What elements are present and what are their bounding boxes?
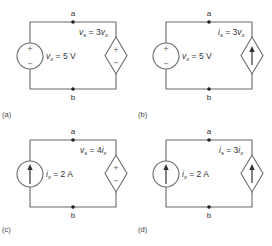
node-a-label: a [71, 9, 76, 18]
circuit-wire [30, 187, 116, 207]
node-b-label: b [207, 211, 212, 220]
node-a-dot [207, 138, 211, 142]
plus-sign: + [163, 45, 169, 53]
panel-caption: (d) [138, 225, 148, 234]
panel-caption: (a) [2, 110, 12, 119]
node-a-label: a [207, 9, 212, 18]
circuit-panel-a: + − vx = 5 V + − vs = 3vx a b (a) [2, 9, 127, 119]
circuit-panel-c: ix = 2 A + − vs = 4ix a b (c) [2, 127, 127, 234]
independent-source-label: vx = 5 V [46, 51, 76, 62]
dependent-source-label: vs = 3vx [79, 27, 109, 38]
node-b-label: b [207, 93, 212, 102]
dependent-source-label: is = 3ix [219, 145, 244, 156]
dependent-source-label: is = 3vx [218, 27, 246, 38]
minus-sign: − [113, 177, 119, 185]
independent-source-label: ix = 2 A [46, 169, 73, 180]
circuit-figure: + − vx = 5 V + − vs = 3vx a b (a) + − vx… [0, 0, 272, 246]
dependent-source-label: vs = 4ix [80, 145, 108, 156]
minus-sign: − [163, 60, 169, 68]
node-a-dot [71, 20, 75, 24]
circuit-panel-d: ix = 2 A is = 3ix a b (d) [138, 127, 263, 234]
dependent-voltage-source-icon [105, 155, 127, 192]
minus-sign: − [113, 59, 119, 67]
node-a-dot [71, 138, 75, 142]
independent-source-label: vx = 5 V [182, 51, 212, 62]
plus-sign: + [27, 45, 33, 53]
node-a-label: a [71, 127, 76, 136]
node-b-dot [71, 87, 75, 91]
node-b-dot [207, 205, 211, 209]
node-a-label: a [207, 127, 212, 136]
node-b-label: b [71, 93, 76, 102]
dependent-voltage-source-icon [105, 37, 127, 74]
independent-source-label: ix = 2 A [182, 169, 209, 180]
node-a-dot [207, 20, 211, 24]
plus-sign: + [113, 46, 119, 54]
node-b-label: b [71, 211, 76, 220]
circuit-wire [166, 187, 252, 207]
panel-caption: (c) [2, 225, 11, 234]
minus-sign: − [27, 60, 33, 68]
panel-caption: (b) [138, 110, 148, 119]
circuit-panel-b: + − vx = 5 V is = 3vx a b (b) [138, 9, 263, 119]
plus-sign: + [113, 164, 119, 172]
circuit-wire [166, 69, 252, 89]
node-b-dot [71, 205, 75, 209]
circuit-wire [30, 69, 116, 89]
node-b-dot [207, 87, 211, 91]
